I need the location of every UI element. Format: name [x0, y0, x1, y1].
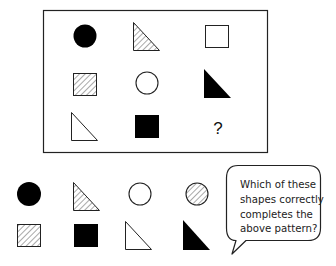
option-black-triangle[interactable] [183, 220, 210, 250]
option-hatched-triangle[interactable] [74, 183, 100, 211]
grid-hatched-square [74, 74, 97, 96]
option-black-square[interactable] [74, 224, 98, 247]
bubble-line-1: Which of these [240, 179, 316, 190]
option-white-circle[interactable] [129, 183, 151, 205]
option-hatched-circle[interactable] [186, 183, 208, 205]
bubble-line-2: shapes correctly [240, 194, 324, 205]
option-black-circle[interactable] [17, 182, 41, 206]
bubble-line-3: completes the [240, 209, 313, 220]
grid-black-square [135, 115, 159, 138]
option-hatched-square[interactable] [18, 225, 41, 247]
grid-black-circle [74, 25, 97, 48]
missing-shape-question-mark: ? [213, 119, 222, 138]
grid-white-square [206, 26, 229, 48]
bubble-line-4: above pattern? [240, 223, 317, 234]
option-white-triangle[interactable] [126, 222, 152, 250]
pattern-puzzle-diagram: ? Which of these shapes correctly comple… [0, 0, 336, 266]
grid-white-circle [136, 72, 158, 94]
